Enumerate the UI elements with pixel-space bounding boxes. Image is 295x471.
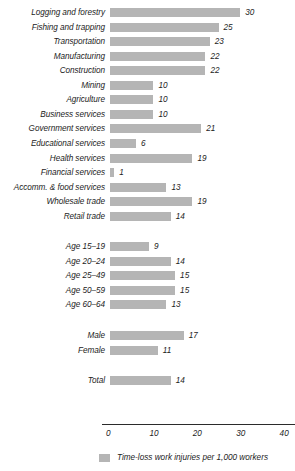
chart-row: Accomm. & food services13 <box>0 181 295 194</box>
bar-container: 10 <box>110 110 153 119</box>
bar-container: 30 <box>110 8 240 17</box>
bar-value-label: 17 <box>189 329 198 342</box>
bar <box>110 66 205 75</box>
bar-container: 14 <box>110 212 171 221</box>
bar <box>110 168 114 177</box>
category-label: Female <box>0 344 105 357</box>
chart-row: Age 60–6413 <box>0 298 295 311</box>
bar <box>110 300 166 309</box>
bar <box>110 139 136 148</box>
x-axis-line <box>102 424 295 425</box>
category-label: Accomm. & food services <box>0 181 105 194</box>
category-label: Manufacturing <box>0 50 105 63</box>
chart-row: Fishing and trapping25 <box>0 21 295 34</box>
category-label: Mining <box>0 79 105 92</box>
bar <box>110 37 210 46</box>
category-label: Agriculture <box>0 93 105 106</box>
bar-value-label: 14 <box>176 374 185 387</box>
category-label: Wholesale trade <box>0 195 105 208</box>
legend-swatch-icon <box>99 454 110 462</box>
bar-container: 1 <box>110 168 114 177</box>
bar-value-label: 9 <box>154 240 159 253</box>
chart-row: Age 25–4915 <box>0 269 295 282</box>
x-tick-label: 10 <box>149 428 158 439</box>
bar-container: 10 <box>110 81 153 90</box>
category-label: Age 50–59 <box>0 284 105 297</box>
bar-container: 13 <box>110 183 166 192</box>
category-label: Age 60–64 <box>0 298 105 311</box>
bar-container: 25 <box>110 23 219 32</box>
category-label: Business services <box>0 108 105 121</box>
bar-container: 9 <box>110 242 149 251</box>
chart-row: Government services21 <box>0 122 295 135</box>
chart-row: Retail trade14 <box>0 210 295 223</box>
bar <box>110 212 171 221</box>
bar-container: 22 <box>110 52 205 61</box>
bar-value-label: 15 <box>180 284 189 297</box>
bar-value-label: 14 <box>176 255 185 268</box>
bar-value-label: 10 <box>158 108 167 121</box>
bar-container: 15 <box>110 271 175 280</box>
bar-value-label: 25 <box>224 21 233 34</box>
chart-row: Male17 <box>0 329 295 342</box>
x-tick-label: 20 <box>193 428 202 439</box>
bar-container: 13 <box>110 300 166 309</box>
bar-value-label: 30 <box>245 6 254 19</box>
category-label: Health services <box>0 152 105 165</box>
bar-value-label: 1 <box>119 166 124 179</box>
legend-label: Time-loss work injuries per 1,000 worker… <box>117 452 268 464</box>
chart-row: Female11 <box>0 344 295 357</box>
bar <box>110 183 166 192</box>
category-label: Educational services <box>0 137 105 150</box>
category-label: Age 20–24 <box>0 255 105 268</box>
bar <box>110 331 184 340</box>
chart-row: Financial services1 <box>0 166 295 179</box>
bar-value-label: 23 <box>215 35 224 48</box>
bar <box>110 95 153 104</box>
bar-value-label: 19 <box>197 152 206 165</box>
category-label: Fishing and trapping <box>0 21 105 34</box>
bar-value-label: 21 <box>206 122 215 135</box>
bar-container: 14 <box>110 376 171 385</box>
bar-value-label: 13 <box>171 181 180 194</box>
bar-value-label: 10 <box>158 93 167 106</box>
category-label: Male <box>0 329 105 342</box>
category-label: Logging and forestry <box>0 6 105 19</box>
bar <box>110 81 153 90</box>
bar <box>110 124 201 133</box>
x-tick-label: 40 <box>280 428 289 439</box>
category-label: Transportation <box>0 35 105 48</box>
bar <box>110 197 192 206</box>
bar-container: 6 <box>110 139 136 148</box>
bar <box>110 110 153 119</box>
bar-value-label: 10 <box>158 79 167 92</box>
chart-row: Health services19 <box>0 152 295 165</box>
bar-container: 22 <box>110 66 205 75</box>
chart-row: Age 20–2414 <box>0 255 295 268</box>
chart-row: Logging and forestry30 <box>0 6 295 19</box>
chart-row: Construction22 <box>0 64 295 77</box>
chart-row: Transportation23 <box>0 35 295 48</box>
bar-container: 21 <box>110 124 201 133</box>
bar-container: 19 <box>110 197 192 206</box>
category-label: Total <box>0 374 105 387</box>
chart-row: Age 50–5915 <box>0 284 295 297</box>
bar-container: 11 <box>110 346 158 355</box>
bar <box>110 271 175 280</box>
bar-value-label: 22 <box>210 64 219 77</box>
bar <box>110 8 240 17</box>
chart-row: Educational services6 <box>0 137 295 150</box>
x-tick-label: 0 <box>106 428 111 439</box>
chart-row: Agriculture10 <box>0 93 295 106</box>
x-tick-label: 30 <box>236 428 245 439</box>
category-label: Retail trade <box>0 210 105 223</box>
category-label: Construction <box>0 64 105 77</box>
bar-value-label: 22 <box>210 50 219 63</box>
bar <box>110 257 171 266</box>
bar <box>110 346 158 355</box>
bar-value-label: 13 <box>171 298 180 311</box>
bar-chart: Logging and forestry30Fishing and trappi… <box>0 0 295 471</box>
chart-row: Business services10 <box>0 108 295 121</box>
bar-value-label: 6 <box>141 137 146 150</box>
bar <box>110 154 192 163</box>
